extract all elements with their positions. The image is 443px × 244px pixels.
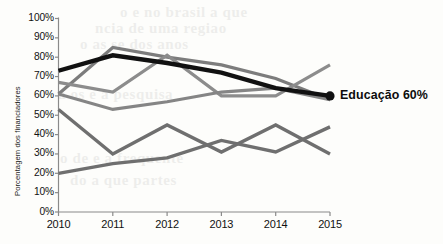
- line-chart: Porcentagem dos financiadores 100%90%80%…: [0, 0, 443, 244]
- series-end-label: Educação 60%: [340, 88, 428, 102]
- plot-area: [0, 0, 443, 244]
- series-end-dot-educação: [325, 91, 334, 100]
